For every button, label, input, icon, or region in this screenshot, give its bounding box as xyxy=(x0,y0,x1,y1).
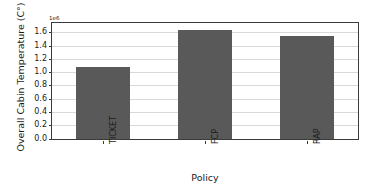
y-tick-mark xyxy=(49,32,52,33)
plot-inner xyxy=(52,23,358,139)
y-axis-offset-label: 1e6 xyxy=(49,15,59,22)
bar-chart-figure: Overall Cabin Temperature (C°) 1e6 Polic… xyxy=(0,0,380,191)
x-axis-title: Policy xyxy=(51,172,359,184)
x-tick-label: FCP xyxy=(210,129,221,144)
x-tick-mark xyxy=(307,141,308,144)
y-tick-label: 1.0 xyxy=(21,67,47,76)
plot-area xyxy=(51,22,359,140)
y-tick-label: 1.2 xyxy=(21,54,47,63)
y-tick-mark xyxy=(49,125,52,126)
y-tick-mark xyxy=(49,59,52,60)
y-tick-label: 1.4 xyxy=(21,41,47,50)
y-tick-mark xyxy=(49,112,52,113)
y-tick-mark xyxy=(49,85,52,86)
x-tick-label: RAP xyxy=(312,128,323,144)
bar xyxy=(178,30,231,139)
y-tick-mark xyxy=(49,46,52,47)
y-tick-mark xyxy=(49,72,52,73)
x-tick-label: TICKET xyxy=(108,116,119,144)
y-tick-label: 0.4 xyxy=(21,107,47,116)
y-tick-label: 0.2 xyxy=(21,120,47,129)
y-tick-mark xyxy=(49,139,52,140)
y-tick-mark xyxy=(49,99,52,100)
y-tick-label: 0.6 xyxy=(21,94,47,103)
y-tick-label: 1.6 xyxy=(21,27,47,36)
y-axis-title: Overall Cabin Temperature (C°) xyxy=(14,2,28,152)
x-tick-mark xyxy=(205,141,206,144)
bar xyxy=(76,67,129,139)
y-tick-label: 0.8 xyxy=(21,80,47,89)
bar xyxy=(280,36,333,139)
y-tick-label: 0.0 xyxy=(21,134,47,143)
x-tick-mark xyxy=(103,141,104,144)
